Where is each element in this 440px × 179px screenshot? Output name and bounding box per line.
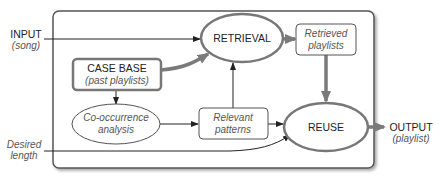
input-subtitle: (song) (12, 40, 40, 51)
case-base-subtitle: (past playlists) (85, 75, 149, 86)
node-retrieved-playlists: Retrieved playlists (296, 24, 356, 55)
relevant-patterns-line2: patterns (214, 124, 251, 135)
node-cooccurrence: Co-occurrence analysis (72, 104, 160, 144)
desired-length-line1: Desired (7, 139, 42, 150)
desired-length-line2: length (10, 150, 38, 161)
output-title: OUTPUT (389, 121, 433, 133)
retrieved-playlists-line1: Retrieved (305, 28, 348, 39)
cooccurrence-line2: analysis (98, 124, 134, 135)
input-title: INPUT (10, 28, 42, 40)
case-base-title: CASE BASE (87, 62, 147, 74)
external-output: OUTPUT (playlist) (389, 121, 433, 144)
node-retrieval: RETRIEVAL (201, 14, 283, 62)
external-input: INPUT (song) (10, 28, 42, 51)
node-case-base: CASE BASE (past playlists) (73, 59, 161, 90)
node-reuse: REUSE (284, 103, 368, 151)
output-subtitle: (playlist) (392, 133, 429, 144)
cooccurrence-line1: Co-occurrence (83, 112, 149, 123)
retrieved-playlists-line2: playlists (307, 40, 344, 51)
retrieval-label: RETRIEVAL (213, 32, 271, 44)
external-desired-length: Desired length (7, 139, 42, 161)
node-relevant-patterns: Relevant patterns (199, 108, 268, 139)
reuse-label: REUSE (308, 121, 344, 133)
diagram-canvas: RETRIEVAL Retrieved playlists CASE BASE … (0, 0, 440, 179)
relevant-patterns-line1: Relevant (213, 112, 254, 123)
